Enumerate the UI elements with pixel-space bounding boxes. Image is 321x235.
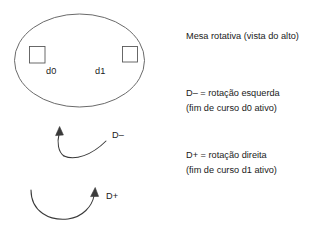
diagram-title: Mesa rotativa (vista do alto) <box>186 29 299 44</box>
sensor-label-d0: d0 <box>46 66 56 77</box>
sensor-square-d0 <box>30 47 46 64</box>
note-left-rotation-line2: (fim de curso d0 ativo) <box>186 101 280 116</box>
arrow-d-minus-curve <box>64 141 106 158</box>
note-left-rotation-line1: D– = rotação esquerda <box>186 86 280 101</box>
diagram-title-text: Mesa rotativa (vista do alto) <box>186 29 299 44</box>
note-right-rotation: D+ = rotação direita (fim de curso d1 at… <box>186 148 277 178</box>
arrow-d-plus-head <box>91 188 99 197</box>
arrow-d-plus-curve <box>31 190 94 219</box>
arrow-d-minus-tail <box>58 134 64 156</box>
note-left-rotation: D– = rotação esquerda (fim de curso d0 a… <box>186 86 280 116</box>
diagram-root: d0 d1 D– D+ Mesa rotativa (vista do alto… <box>0 0 321 235</box>
arrow-d-minus-head <box>56 127 64 136</box>
sensor-square-d1 <box>123 47 138 63</box>
arrow-label-d-plus: D+ <box>106 191 118 202</box>
sensor-label-d1: d1 <box>95 66 105 77</box>
note-right-rotation-line2: (fim de curso d1 ativo) <box>186 163 277 178</box>
note-right-rotation-line1: D+ = rotação direita <box>186 148 277 163</box>
arrow-label-d-minus: D– <box>112 130 124 141</box>
